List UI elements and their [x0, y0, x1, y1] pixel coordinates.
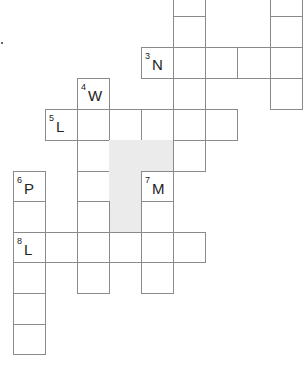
grid-cell[interactable] — [13, 293, 46, 325]
cell-letter: M — [152, 181, 165, 196]
cell-letter: L — [56, 119, 64, 134]
crossword-grid: 3N4W5L6P7M8L — [0, 0, 305, 370]
clue-start-cell-6[interactable]: 6P — [13, 171, 46, 202]
clue-number: 8 — [17, 237, 22, 246]
stray-mark — [1, 42, 3, 44]
shaded-block — [109, 140, 174, 172]
cell-letter: L — [24, 242, 32, 257]
grid-cell[interactable] — [237, 47, 271, 79]
grid-cell[interactable] — [13, 262, 46, 294]
clue-number: 7 — [145, 176, 150, 185]
grid-cell[interactable] — [270, 16, 303, 48]
grid-cell[interactable] — [77, 171, 110, 202]
grid-cell[interactable] — [173, 0, 206, 17]
grid-cell[interactable] — [173, 109, 206, 141]
grid-cell[interactable] — [77, 109, 110, 141]
grid-cell[interactable] — [141, 201, 174, 233]
grid-cell[interactable] — [270, 78, 303, 110]
grid-cell[interactable] — [173, 47, 206, 79]
grid-cell[interactable] — [141, 232, 174, 263]
clue-number: 3 — [145, 52, 150, 61]
grid-cell[interactable] — [141, 262, 174, 294]
grid-cell[interactable] — [13, 324, 46, 355]
grid-cell[interactable] — [270, 0, 303, 17]
grid-cell[interactable] — [173, 140, 206, 172]
grid-cell[interactable] — [173, 78, 206, 110]
shaded-block — [109, 171, 142, 233]
grid-cell[interactable] — [13, 201, 46, 233]
cell-letter: W — [88, 88, 102, 103]
grid-cell[interactable] — [270, 47, 303, 79]
grid-cell[interactable] — [173, 16, 206, 48]
grid-cell[interactable] — [77, 232, 110, 263]
clue-number: 4 — [81, 83, 86, 92]
cell-letter: N — [152, 57, 163, 72]
grid-cell[interactable] — [141, 109, 174, 141]
grid-cell[interactable] — [45, 232, 78, 263]
clue-start-cell-4[interactable]: 4W — [77, 78, 110, 110]
clue-start-cell-5[interactable]: 5L — [45, 109, 78, 141]
grid-cell[interactable] — [77, 201, 110, 233]
clue-start-cell-3[interactable]: 3N — [141, 47, 174, 79]
clue-number: 5 — [49, 114, 54, 123]
clue-number: 6 — [17, 176, 22, 185]
cell-letter: P — [24, 181, 34, 196]
grid-cell[interactable] — [77, 140, 110, 172]
clue-start-cell-7[interactable]: 7M — [141, 171, 174, 202]
grid-cell[interactable] — [205, 109, 238, 141]
clue-start-cell-8[interactable]: 8L — [13, 232, 46, 263]
grid-cell[interactable] — [109, 109, 142, 141]
grid-cell[interactable] — [173, 232, 206, 263]
grid-cell[interactable] — [109, 232, 142, 263]
grid-cell[interactable] — [77, 262, 110, 294]
grid-cell[interactable] — [205, 47, 238, 79]
